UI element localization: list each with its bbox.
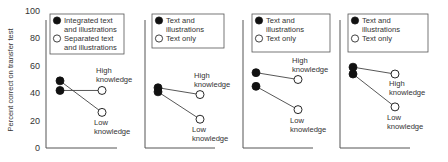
high-knowledge-label: knowledge (389, 88, 425, 97)
legend-filled-marker-icon (351, 17, 358, 24)
chart-svg: 020406080100Percent correct on transfer … (0, 0, 448, 162)
low-knowledge-label: knowledge (94, 127, 130, 136)
legend-label: Text only (266, 34, 296, 43)
filled-data-point (154, 88, 162, 96)
high-knowledge-label: High (292, 56, 308, 65)
transfer-test-chart: 020406080100Percent correct on transfer … (0, 0, 448, 162)
legend-filled-marker-icon (155, 17, 162, 24)
legend-label: and illustrations (64, 43, 117, 52)
open-data-point (294, 106, 302, 114)
filled-data-point (252, 69, 260, 77)
legend-filled-marker-icon (53, 17, 60, 24)
legend-label: and illustrations (64, 25, 117, 34)
low-knowledge-label: Low (290, 116, 304, 125)
low-knowledge-label: Low (192, 125, 206, 134)
low-knowledge-label: Low (94, 118, 108, 127)
legend-label: Text and (362, 16, 391, 25)
high-knowledge-line (353, 67, 395, 74)
open-data-point (196, 91, 204, 99)
y-axis-label: Percent correct on transfer test (6, 28, 15, 132)
low-knowledge-label: Low (387, 113, 401, 122)
filled-data-point (252, 82, 260, 90)
legend-open-marker-icon (255, 35, 262, 42)
high-knowledge-label: knowledge (194, 80, 230, 89)
legend-label: Text only (166, 34, 196, 43)
legend-label: Text and (166, 16, 195, 25)
high-knowledge-label: High (96, 66, 112, 75)
legend-label: Text only (362, 34, 392, 43)
legend-label: Separated text (64, 34, 114, 43)
legend-open-marker-icon (53, 35, 60, 42)
low-knowledge-line (256, 86, 298, 109)
y-tick-label: 60 (30, 61, 40, 71)
open-data-point (391, 70, 399, 78)
y-tick-label: 0 (35, 143, 40, 153)
y-tick-label: 80 (30, 33, 40, 43)
legend-label: illustrations (266, 25, 304, 34)
open-data-point (196, 115, 204, 123)
low-knowledge-line (60, 81, 102, 113)
high-knowledge-label: High (389, 79, 405, 88)
y-tick-label: 40 (30, 88, 40, 98)
legend-open-marker-icon (351, 35, 358, 42)
high-knowledge-label: High (194, 71, 210, 80)
filled-data-point (56, 86, 64, 94)
filled-data-point (56, 77, 64, 85)
high-knowledge-line (256, 73, 298, 80)
legend-label: Integrated text (64, 16, 113, 25)
open-data-point (98, 108, 106, 116)
low-knowledge-label: knowledge (290, 125, 326, 134)
legend-label: illustrations (166, 25, 204, 34)
legend-filled-marker-icon (255, 17, 262, 24)
legend-label: Text and (266, 16, 295, 25)
legend-label: illustrations (362, 25, 400, 34)
high-knowledge-label: knowledge (292, 65, 328, 74)
low-knowledge-label: knowledge (192, 134, 228, 143)
high-knowledge-label: knowledge (96, 75, 132, 84)
low-knowledge-label: knowledge (387, 122, 423, 131)
y-tick-label: 20 (30, 116, 40, 126)
open-data-point (294, 76, 302, 84)
high-knowledge-line (158, 88, 200, 95)
legend-open-marker-icon (155, 35, 162, 42)
y-tick-label: 100 (25, 6, 40, 16)
open-data-point (98, 86, 106, 94)
filled-data-point (349, 70, 357, 78)
low-knowledge-line (158, 92, 200, 119)
open-data-point (391, 103, 399, 111)
